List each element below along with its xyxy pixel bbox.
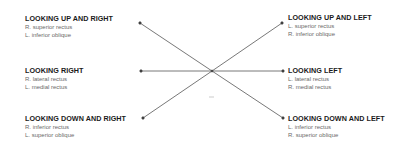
- arrowhead-icon: [282, 117, 284, 119]
- label-down-right: LOOKING DOWN AND RIGHT R. inferior rectu…: [25, 114, 126, 139]
- direction-title: LOOKING LEFT: [288, 66, 342, 75]
- direction-title: LOOKING DOWN AND LEFT: [288, 114, 385, 123]
- arrow-up-left: [212, 23, 282, 71]
- direction-title: LOOKING RIGHT: [25, 66, 84, 75]
- arrow-down-left: [212, 71, 283, 118]
- label-down-left: LOOKING DOWN AND LEFT L. inferior rectus…: [288, 114, 385, 139]
- arrow-down-right: [143, 71, 212, 118]
- center-point-icon: [211, 70, 213, 72]
- muscle-label: R. inferior oblique: [288, 30, 372, 38]
- label-up-left: LOOKING UP AND LEFT L. superior rectus R…: [288, 13, 372, 38]
- muscle-label: L. lateral rectus: [288, 75, 342, 83]
- muscle-label: R. medial rectus: [288, 83, 342, 91]
- arrowhead-icon: [140, 70, 142, 72]
- muscle-label: R. lateral rectus: [25, 75, 84, 83]
- muscle-label: L. inferior rectus: [288, 123, 385, 131]
- muscle-label: R. superior oblique: [288, 131, 385, 139]
- direction-title: LOOKING UP AND RIGHT: [25, 14, 113, 23]
- muscle-label: L. inferior oblique: [25, 31, 113, 39]
- direction-title: LOOKING DOWN AND RIGHT: [25, 114, 126, 123]
- muscle-label: R. superior rectus: [25, 23, 113, 31]
- muscle-label: R. inferior rectus: [25, 123, 126, 131]
- label-right: LOOKING RIGHT R. lateral rectus L. media…: [25, 66, 84, 91]
- arrowhead-icon: [139, 22, 141, 24]
- arrowhead-icon: [281, 22, 283, 24]
- direction-title: LOOKING UP AND LEFT: [288, 13, 372, 22]
- muscle-label: L. superior oblique: [25, 131, 126, 139]
- muscle-label: L. superior rectus: [288, 22, 372, 30]
- arrow-up-right: [140, 23, 212, 71]
- muscle-label: L. medial rectus: [25, 83, 84, 91]
- label-left: LOOKING LEFT L. lateral rectus R. medial…: [288, 66, 342, 91]
- arrowhead-icon: [142, 117, 144, 119]
- label-up-right: LOOKING UP AND RIGHT R. superior rectus …: [25, 14, 113, 39]
- arrowhead-icon: [282, 70, 284, 72]
